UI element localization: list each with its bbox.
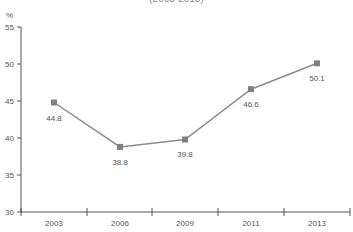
series-line	[54, 63, 317, 147]
data-label: 38.8	[112, 158, 128, 167]
x-tick-label: 2006	[111, 219, 129, 228]
y-ticks: 55 50 45 40 35 30	[5, 23, 21, 217]
y-tick-label: 40	[5, 134, 14, 143]
y-tick-label: 35	[5, 171, 14, 180]
data-point-marker	[117, 144, 123, 150]
y-tick-label: 30	[5, 208, 14, 217]
data-point-marker	[51, 100, 57, 106]
x-tick-label: 2003	[45, 219, 63, 228]
data-label: 50.1	[309, 74, 325, 83]
x-tick-label: 2013	[308, 219, 326, 228]
data-label: 39.8	[177, 150, 193, 159]
x-ticks: 2003 2006 2009 2011 2013	[21, 208, 350, 228]
data-point-marker	[182, 137, 188, 143]
x-tick-label: 2009	[176, 219, 194, 228]
data-markers	[51, 60, 320, 150]
y-tick-label: 45	[5, 97, 14, 106]
y-axis-unit-label: %	[6, 11, 13, 20]
data-label: 44.8	[46, 114, 62, 123]
x-tick-label: 2011	[242, 219, 260, 228]
data-point-marker	[314, 60, 320, 66]
data-label: 46.6	[243, 100, 259, 109]
y-tick-label: 50	[5, 60, 14, 69]
data-point-marker	[248, 86, 254, 92]
line-chart: % 55 50 45 40 35 30 2003 2006 2009 2011 …	[0, 0, 353, 232]
y-tick-label: 55	[5, 23, 14, 32]
